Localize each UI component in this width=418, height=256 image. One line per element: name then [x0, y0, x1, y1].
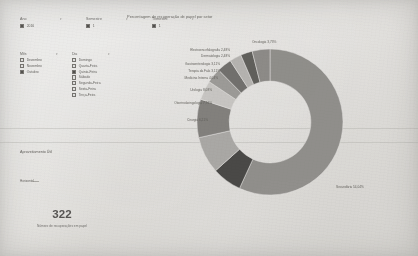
slicer-option-label: Novembro	[27, 64, 42, 68]
kpi-slice-label: Horizontal	[20, 179, 34, 183]
slicer-mes[interactable]: Mês ▾ Dezembro Novembro Outubro	[20, 52, 58, 98]
slicer-option-sabado[interactable]: Sábado	[72, 75, 110, 79]
slice-label-cirurgia: Cirurgia 6,21%	[142, 118, 208, 122]
filter-semestre-title: Semestre	[86, 17, 102, 21]
slicer-option-label: Dezembro	[27, 58, 42, 62]
slice-label-terapia-da-fala: Terapia da Fala 3,11%	[142, 69, 220, 73]
filter-semestre[interactable]: Semestre ▾ 1	[86, 17, 128, 28]
filter-trimestre-option[interactable]: 1	[152, 24, 194, 28]
checkbox-icon[interactable]	[20, 24, 24, 28]
checkbox-icon[interactable]	[72, 93, 76, 97]
slice-label-urologia: Urologia 8,08%	[150, 88, 212, 92]
slicer-option-label: Sábado	[79, 75, 90, 79]
slicer-option-dezembro[interactable]: Dezembro	[20, 58, 58, 62]
slicer-dia-header: Dia ▾	[72, 52, 110, 56]
main-chart-title: Percentagem de recuperação de papel por …	[127, 14, 212, 19]
chevron-down-icon[interactable]: ▾	[56, 52, 58, 56]
checkbox-icon[interactable]	[20, 70, 24, 74]
chevron-down-icon[interactable]: ▾	[60, 17, 62, 21]
slicer-option-label: Quinta-Feira	[79, 70, 97, 74]
slice-label-oncologia: Oncologia 3,73%	[252, 40, 276, 44]
filter-ano-title: Ano	[20, 17, 27, 21]
slicer-option-label: Sexta-Feira	[79, 87, 96, 91]
kpi-leader-line	[33, 181, 39, 182]
slicer-option-terca-feira[interactable]: Terça-Feira	[72, 93, 110, 97]
slicer-option-segunda-feira[interactable]: Segunda-Feira	[72, 81, 110, 85]
slicer-option-label: Outubro	[27, 70, 39, 74]
slice-label-secundaria: Secundária 54,04%	[336, 185, 364, 189]
filter-trimestre-value: 1	[159, 24, 161, 28]
slicer-panels: Mês ▾ Dezembro Novembro Outubro Dia ▾ Do…	[20, 52, 110, 98]
kpi-donut-svg[interactable]	[40, 161, 84, 205]
kpi-donut-chart[interactable]	[40, 161, 84, 205]
slicer-dia[interactable]: Dia ▾ Domingo Quarta-Feira Quinta-Feira …	[72, 52, 110, 98]
slicer-option-sexta-feira[interactable]: Sexta-Feira	[72, 87, 110, 91]
checkbox-icon[interactable]	[72, 81, 76, 85]
checkbox-icon[interactable]	[72, 75, 76, 79]
slicer-dia-title: Dia	[72, 52, 77, 56]
slicer-option-label: Terça-Feira	[79, 93, 96, 97]
checkbox-icon[interactable]	[72, 64, 76, 68]
filter-ano-header: Ano ▾	[20, 17, 62, 21]
filter-ano[interactable]: Ano ▾ 2016	[20, 17, 62, 28]
slicer-option-novembro[interactable]: Novembro	[20, 64, 58, 68]
filter-semestre-option[interactable]: 1	[86, 24, 128, 28]
kpi-subtitle: Número de recuperações em papel	[8, 224, 116, 228]
filter-ano-option[interactable]: 2016	[20, 24, 62, 28]
slicer-mes-title: Mês	[20, 52, 27, 56]
slice-label-electroencefalografia: Electroencefalografia 2,48%	[150, 48, 230, 52]
slicer-option-quinta-feira[interactable]: Quinta-Feira	[72, 70, 110, 74]
slice-label-dermatologia: Dermatologia 2,48%	[150, 54, 230, 58]
kpi-card-title: Aproveitamento Útil	[20, 150, 52, 154]
filter-semestre-value: 1	[93, 24, 95, 28]
checkbox-icon[interactable]	[152, 24, 156, 28]
filter-semestre-header: Semestre ▾	[86, 17, 128, 21]
slicer-option-label: Segunda-Feira	[79, 81, 101, 85]
checkbox-icon[interactable]	[72, 87, 76, 91]
slicer-mes-header: Mês ▾	[20, 52, 58, 56]
slicer-option-quarta-feira[interactable]: Quarta-Feira	[72, 64, 110, 68]
checkbox-icon[interactable]	[86, 24, 90, 28]
slicer-option-outubro[interactable]: Outubro	[20, 70, 58, 74]
slicer-option-domingo[interactable]: Domingo	[72, 58, 110, 62]
kpi-value: 322	[20, 208, 104, 220]
slice-label-otorrinolaringologia: Otorrinolaringologia 7,76%	[134, 101, 212, 105]
slice-label-medicina-interna: Medicina Interna 4,04%	[140, 76, 218, 80]
slice-label-gastroenterologia: Gastroenterologia 3,11%	[140, 62, 220, 66]
checkbox-icon[interactable]	[20, 58, 24, 62]
slicer-option-label: Domingo	[79, 58, 92, 62]
checkbox-icon[interactable]	[72, 70, 76, 74]
checkbox-icon[interactable]	[20, 64, 24, 68]
chevron-down-icon[interactable]: ▾	[108, 52, 110, 56]
filter-ano-value: 2016	[27, 24, 35, 28]
checkbox-icon[interactable]	[72, 58, 76, 62]
slicer-option-label: Quarta-Feira	[79, 64, 98, 68]
